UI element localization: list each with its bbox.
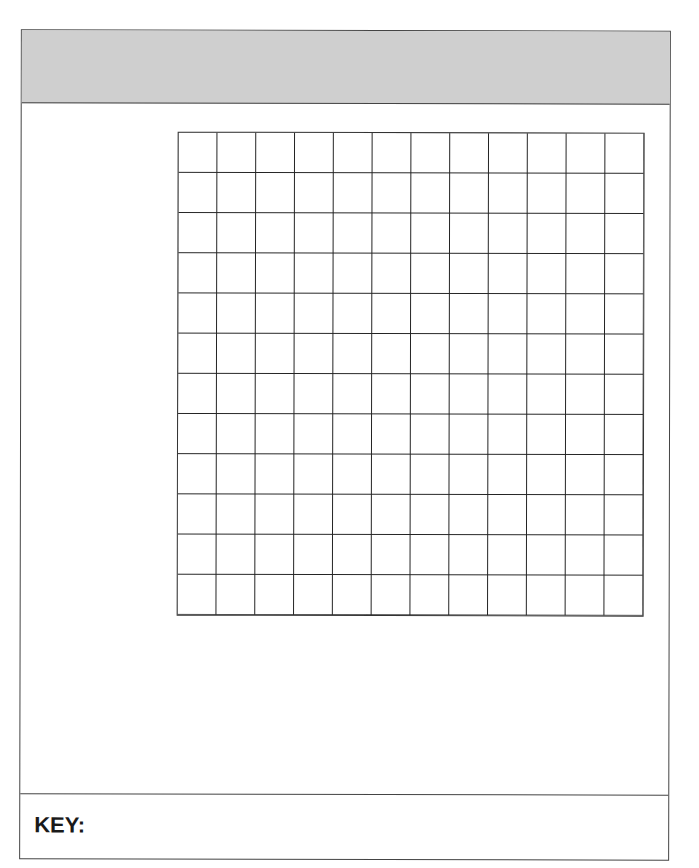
key-area: KEY:	[20, 793, 668, 859]
title-band	[22, 30, 670, 104]
key-label: KEY:	[34, 812, 85, 838]
graph-worksheet: KEY:	[19, 29, 671, 860]
graph-grid	[177, 132, 645, 617]
